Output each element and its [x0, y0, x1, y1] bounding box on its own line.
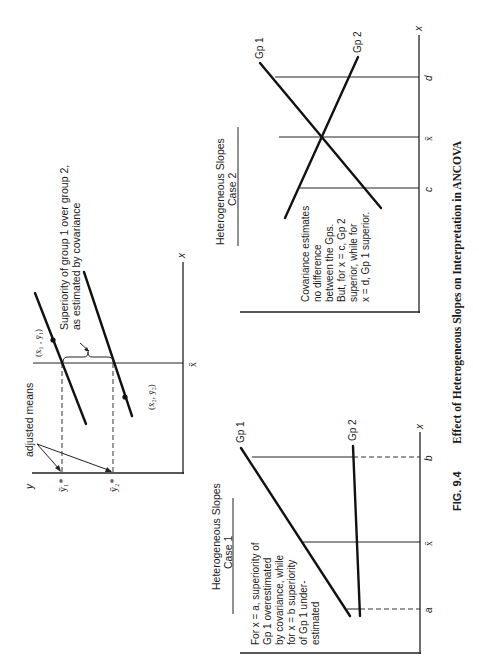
case2-x-axis-label: x: [413, 25, 424, 32]
case1-tick-a: a: [423, 607, 434, 613]
case2-note-line: But, for x = c, Gp 2: [336, 218, 347, 302]
arrowhead: [105, 467, 112, 472]
case1-note-line: of Gp 1 under-: [298, 581, 309, 645]
case2-tick-d: d: [423, 75, 434, 81]
case2-gp1-label: Gp 1: [254, 37, 265, 59]
x-axis-label: x: [176, 252, 187, 259]
case1-note-line: estimated: [310, 602, 321, 645]
case2-tick-c: c: [423, 187, 434, 192]
superiority-label-line1: Superiority of group 1 over group 2,: [58, 165, 70, 330]
superiority-label-line2: as estimated by covariance: [70, 203, 82, 330]
case2-note-line: no difference: [312, 244, 323, 302]
figure-caption: FIG. 9.4 Effect of Heterogeneous Slopes …: [451, 140, 464, 511]
case2-note-line: x = d, Gp 1 superior.: [360, 212, 371, 302]
case2-gp2-label: Gp 2: [352, 31, 363, 53]
group1-mean-point: [50, 337, 55, 342]
group2-regression-line: [84, 272, 132, 416]
case1-gp2-line: [353, 446, 360, 616]
case1-x-axis-label: x: [414, 423, 425, 430]
case1-note-line: Gp 1 overestimated: [262, 558, 273, 645]
case1-tick-xbar: x̄: [423, 541, 434, 546]
case2-title-line2: Case 2: [226, 173, 238, 206]
case2-gp1-line: [260, 63, 381, 208]
superiority-brace: [63, 352, 113, 362]
group1-mean-label: (x̄₁ , ȳ₁): [33, 329, 43, 357]
case1-tick-b: b: [423, 455, 434, 461]
case2-note-line: superior, while for: [348, 223, 359, 302]
group2-mean-point: [122, 394, 127, 399]
case2-note-line: Covariance estimates: [300, 206, 311, 302]
case1-note-line: for x = b superiority: [286, 560, 297, 645]
case1-title-line1: Heterogeneous Slopes: [210, 483, 222, 590]
case2-tick-xbar: x̄: [423, 136, 434, 141]
case1-title-line2: Case 1: [222, 536, 234, 569]
adjusted-means-label: adjusted means: [23, 383, 35, 457]
adjusted-means-arrow-2: [37, 444, 111, 471]
panel-case1: Heterogeneous Slopes Case 1 For x = a, s…: [210, 419, 434, 654]
panel-adjusted-means: x x̄ y ȳ₁* ȳ₂* adjusted means (x̄₁ , ȳ₁)…: [23, 165, 198, 492]
case2-title-line1: Heterogeneous Slopes: [214, 138, 226, 245]
figure-caption-text: Effect of Heterogeneous Slopes on Interp…: [451, 140, 464, 444]
group2-mean-label: (x̄₂, ȳ₂): [146, 384, 156, 410]
y2-adjusted-label: ȳ₂*: [108, 479, 119, 493]
case1-gp1-label: Gp 1: [235, 421, 246, 443]
case1-note-line: by covariance, while: [274, 555, 285, 645]
case2-note-line: between the Gps.: [324, 224, 335, 302]
xbar-label: x̄: [187, 362, 198, 367]
figure-number: FIG. 9.4: [451, 470, 463, 511]
y1-adjusted-label: ȳ₁*: [57, 479, 68, 493]
case1-gp2-label: Gp 2: [347, 419, 358, 441]
case1-note-line: For x = a, superiority of: [250, 542, 261, 645]
panel-case2: Heterogeneous Slopes Case 2 Covariance e…: [214, 25, 434, 313]
y-axis-label: y: [24, 483, 35, 490]
figure-canvas: x x̄ y ȳ₁* ȳ₂* adjusted means (x̄₁ , ȳ₁)…: [0, 0, 479, 660]
